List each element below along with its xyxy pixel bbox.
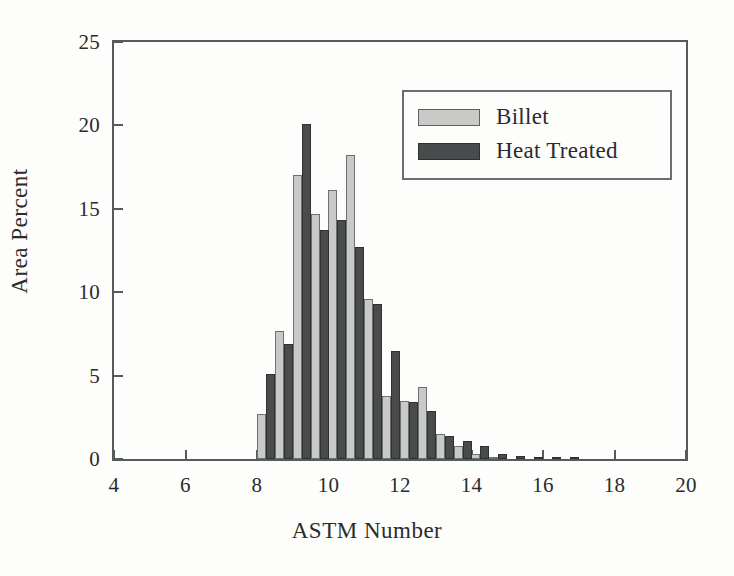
bar-heat-treated-10.25 <box>337 220 346 459</box>
bar-heat-treated-15.75 <box>534 457 543 459</box>
legend-swatch-billet-icon <box>418 109 480 126</box>
x-tick-label-8: 8 <box>252 473 263 498</box>
bar-heat-treated-9.25 <box>302 124 311 459</box>
y-tick-label-20: 20 <box>48 113 100 138</box>
bar-billet-8.25 <box>257 414 266 459</box>
bar-heat-treated-16.75 <box>570 457 579 459</box>
x-tick-label-6: 6 <box>180 473 191 498</box>
bar-heat-treated-13.25 <box>445 436 454 459</box>
bar-billet-14.75 <box>489 457 498 459</box>
y-tick-15 <box>114 208 123 210</box>
legend-label-billet: Billet <box>496 104 549 130</box>
y-tick-label-0: 0 <box>48 447 100 472</box>
y-tick-20 <box>114 124 123 126</box>
bar-billet-11.75 <box>382 396 391 459</box>
bar-heat-treated-11.25 <box>373 304 382 459</box>
bar-heat-treated-15.25 <box>516 456 525 459</box>
y-tick-label-5: 5 <box>48 363 100 388</box>
bar-billet-9.75 <box>311 214 320 459</box>
bar-heat-treated-8.75 <box>284 344 293 459</box>
x-axis-title: ASTM Number <box>0 518 734 544</box>
y-tick-label-15: 15 <box>48 196 100 221</box>
y-tick-0 <box>114 458 123 460</box>
bar-billet-8.75 <box>275 331 284 459</box>
chart-legend: Billet Heat Treated <box>402 90 672 180</box>
bar-heat-treated-16.25 <box>552 457 561 459</box>
y-tick-25 <box>114 41 123 43</box>
bar-heat-treated-11.75 <box>391 351 400 459</box>
bar-billet-12.25 <box>400 401 409 459</box>
bar-heat-treated-14.25 <box>480 446 489 459</box>
x-tick-6 <box>185 450 187 459</box>
bar-billet-9.25 <box>293 175 302 459</box>
bar-billet-10.25 <box>328 190 337 459</box>
x-tick-label-10: 10 <box>318 473 340 498</box>
legend-item-heat-treated: Heat Treated <box>418 134 660 168</box>
x-tick-label-4: 4 <box>109 473 120 498</box>
bar-heat-treated-12.25 <box>409 402 418 459</box>
bar-billet-14.25 <box>471 454 480 459</box>
y-tick-5 <box>114 375 123 377</box>
y-tick-10 <box>114 291 123 293</box>
x-tick-18 <box>614 450 616 459</box>
bar-billet-11.25 <box>364 299 373 459</box>
bar-heat-treated-10.75 <box>355 247 364 459</box>
bar-billet-10.75 <box>346 155 355 459</box>
legend-swatch-heat-treated-icon <box>418 143 480 160</box>
bar-heat-treated-12.75 <box>427 411 436 459</box>
bar-billet-13.25 <box>436 434 445 459</box>
bar-heat-treated-8.25 <box>266 374 275 459</box>
legend-label-heat-treated: Heat Treated <box>496 138 618 164</box>
bar-billet-12.75 <box>418 387 427 459</box>
y-tick-label-25: 25 <box>48 30 100 55</box>
x-tick-label-12: 12 <box>389 473 411 498</box>
x-tick-label-18: 18 <box>604 473 626 498</box>
x-tick-label-14: 14 <box>461 473 483 498</box>
bar-billet-13.75 <box>454 446 463 459</box>
x-tick-label-20: 20 <box>675 473 697 498</box>
chart-figure: 4681012141618200510152025 ASTM Number Ar… <box>0 0 734 576</box>
legend-item-billet: Billet <box>418 100 660 134</box>
y-axis-title: Area Percent <box>7 81 33 381</box>
x-tick-20 <box>685 450 687 459</box>
bar-heat-treated-14.75 <box>498 454 507 459</box>
y-tick-label-10: 10 <box>48 280 100 305</box>
x-tick-label-16: 16 <box>532 473 554 498</box>
bar-heat-treated-13.75 <box>463 441 472 459</box>
bar-heat-treated-9.75 <box>320 230 329 459</box>
